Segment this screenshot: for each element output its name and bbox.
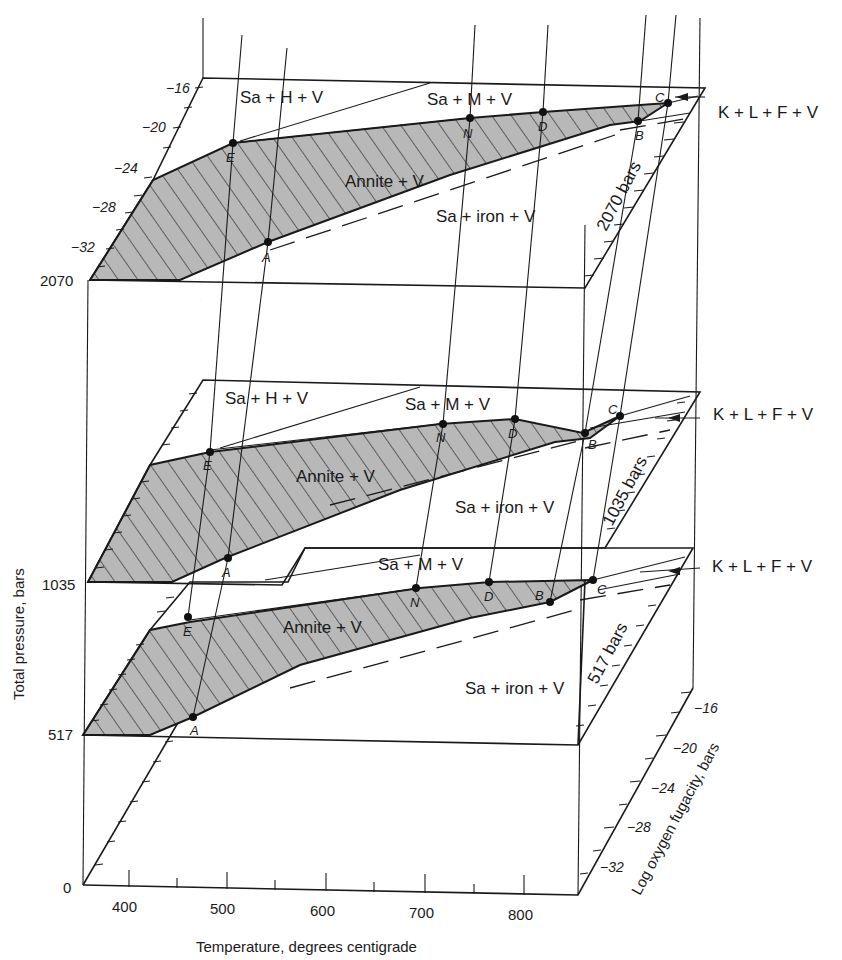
point-E-2070: E <box>226 150 235 165</box>
point-N-1035: N <box>436 430 446 445</box>
plane-label-2070: 2070 bars <box>593 158 645 234</box>
temperature-tick-600: 600 <box>310 902 335 919</box>
temperature-tick-800: 800 <box>508 906 533 923</box>
temperature-axis-title: Temperature, degrees centigrade <box>196 938 417 955</box>
plane-label-517: 517 bars <box>584 620 632 687</box>
point-C-1035: C <box>608 402 618 417</box>
point-D-1035: D <box>508 426 517 441</box>
field-sa-m-v-1035: Sa + M + V <box>405 395 491 414</box>
phase-diagram-figure: E A N D B C E A N D B C E A N D B C Sa +… <box>0 0 842 960</box>
fugacity-tick-32-base: −32 <box>600 859 624 875</box>
field-annite-v-517: Annite + V <box>283 618 363 637</box>
plane-label-1035: 1035 bars <box>599 453 651 529</box>
field-sa-iron-v-517: Sa + iron + V <box>465 679 565 698</box>
pressure-axis-title: Total pressure, bars <box>10 568 27 700</box>
temperature-tick-500: 500 <box>210 900 235 917</box>
pressure-tick-1035: 1035 <box>42 576 75 593</box>
field-sa-m-v-517: Sa + M + V <box>378 555 464 574</box>
fugacity-tick-24-top: −24 <box>114 160 138 176</box>
fugacity-tick-28-base: −28 <box>627 819 651 835</box>
field-klfv-2070: K + L + F + V <box>718 103 819 122</box>
point-A-1035: A <box>221 565 231 580</box>
point-C-517: C <box>597 582 607 597</box>
fugacity-tick-20-top: −20 <box>142 119 166 135</box>
point-C-2070: C <box>655 90 665 105</box>
field-klfv-517: K + L + F + V <box>712 557 813 576</box>
temperature-tick-700: 700 <box>409 904 434 921</box>
field-sa-h-v-1035: Sa + H + V <box>225 389 309 408</box>
field-klfv-1035: K + L + F + V <box>713 405 814 424</box>
point-D-517: D <box>484 589 493 604</box>
point-E-1035: E <box>203 458 212 473</box>
point-A-2070: A <box>261 250 271 265</box>
fugacity-tick-24-base: −24 <box>651 780 675 796</box>
point-A-517: A <box>189 723 199 738</box>
point-E-517: E <box>183 624 192 639</box>
fugacity-tick-32-top: −32 <box>71 239 95 255</box>
fugacity-tick-16-base: −16 <box>694 700 718 716</box>
point-D-2070: D <box>538 119 547 134</box>
field-sa-iron-v-2070: Sa + iron + V <box>436 207 536 226</box>
field-annite-v-2070: Annite + V <box>345 172 425 191</box>
fugacity-tick-20-base: −20 <box>673 740 697 756</box>
pressure-tick-2070: 2070 <box>40 272 73 289</box>
temperature-tick-400: 400 <box>112 898 137 915</box>
fugacity-tick-16-top: −16 <box>166 80 190 96</box>
point-B-2070: B <box>635 128 644 143</box>
field-sa-h-v-2070: Sa + H + V <box>240 88 324 107</box>
fugacity-tick-28-top: −28 <box>92 199 116 215</box>
point-B-517: B <box>535 588 544 603</box>
field-annite-v-1035: Annite + V <box>296 467 376 486</box>
point-N-2070: N <box>463 126 473 141</box>
field-sa-iron-v-1035: Sa + iron + V <box>455 498 555 517</box>
point-N-517: N <box>410 595 420 610</box>
pressure-tick-517: 517 <box>48 726 73 743</box>
point-B-1035: B <box>588 437 597 452</box>
field-sa-m-v-2070: Sa + M + V <box>427 90 513 109</box>
pressure-tick-0: 0 <box>63 879 71 896</box>
